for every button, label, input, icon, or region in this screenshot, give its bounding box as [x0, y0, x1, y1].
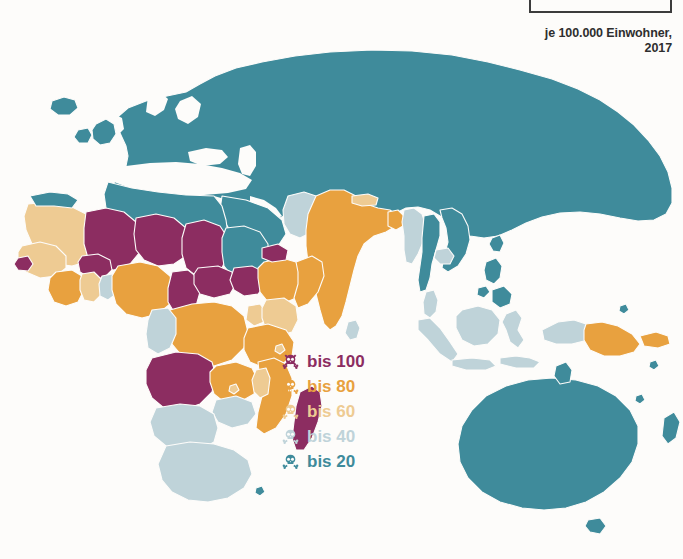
world-map: .c100 { fill:#8c2d61; } .c80 { fill:#e8a…: [0, 0, 683, 559]
legend-label-40: bis 40: [307, 427, 355, 446]
legend-label-80: bis 80: [307, 377, 355, 396]
legend-item-80[interactable]: bis 80: [281, 374, 411, 399]
caption-unit-line: je 100.000 Einwohner,: [470, 26, 672, 41]
skull-and-crossbones-icon: [281, 377, 300, 396]
legend-label-60: bis 60: [307, 402, 355, 421]
legend-label-20: bis 20: [307, 452, 355, 471]
region-iceland: [50, 97, 78, 115]
caption: je 100.000 Einwohner, 2017: [470, 26, 672, 56]
legend-label-100: bis 100: [307, 352, 365, 371]
infographic-map-page: .c100 { fill:#8c2d61; } .c80 { fill:#e8a…: [0, 0, 683, 559]
legend-item-40[interactable]: bis 40: [281, 424, 411, 449]
world-map-svg: .c100 { fill:#8c2d61; } .c80 { fill:#e8a…: [0, 0, 683, 559]
legend-item-60[interactable]: bis 60: [281, 399, 411, 424]
caption-year-line: 2017: [470, 41, 672, 56]
title-frame: [529, 0, 672, 13]
skull-and-crossbones-icon: [281, 402, 300, 421]
skull-and-crossbones-icon: [281, 427, 300, 446]
legend: bis 100: [281, 349, 411, 474]
region-cote-divoire: [48, 270, 84, 306]
legend-item-20[interactable]: bis 20: [281, 449, 411, 474]
region-bangladesh: [388, 210, 404, 230]
skull-and-crossbones-icon: [281, 352, 300, 371]
region-java: [452, 358, 496, 370]
region-sri-lanka: [345, 320, 360, 340]
region-central-african-republic: [194, 266, 236, 298]
legend-item-100[interactable]: bis 100: [281, 349, 411, 374]
skull-and-crossbones-icon: [281, 452, 300, 471]
